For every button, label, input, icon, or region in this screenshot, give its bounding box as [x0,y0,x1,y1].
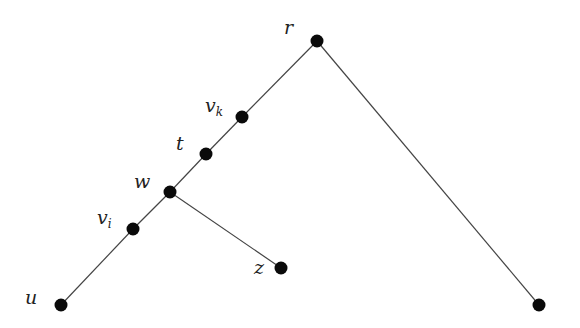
edge-vi-u [61,229,133,305]
label-u: u [25,286,37,308]
label-vk: vk [205,94,223,119]
node-vi [127,223,140,236]
edge-r-vk [242,41,317,117]
node-leaf [533,299,546,312]
label-t: t [176,132,184,154]
node-r [311,35,324,48]
node-u [55,299,68,312]
label-z: z [253,256,265,278]
node-w [164,186,177,199]
nodes [55,35,546,312]
edge-w-vi [133,192,170,229]
label-vi: vi [97,206,112,231]
edge-w-z [170,192,281,268]
edges [61,41,539,305]
labels: rvktwviuz [25,16,295,308]
edge-vk-t [206,117,242,154]
label-r: r [284,16,295,38]
tree-diagram: rvktwviuz [0,0,580,328]
node-t [200,148,213,161]
node-vk [236,111,249,124]
label-w: w [134,170,150,192]
edge-r-leaf [317,41,539,305]
edge-t-w [170,154,206,192]
node-z [275,262,288,275]
